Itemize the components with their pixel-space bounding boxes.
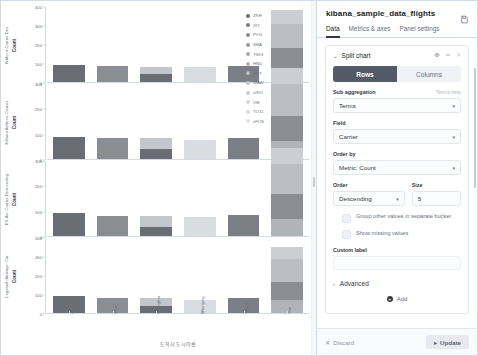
bar-segment[interactable] [97,138,128,160]
y-axis-line [45,161,46,237]
legend-label: TO11 [253,109,263,114]
toggle-columns[interactable]: Columns [397,66,461,82]
y-axis-tick: 100 [35,62,42,67]
eye-icon[interactable] [434,52,440,59]
stacked-bar[interactable] [184,67,215,83]
update-label: Update [440,339,461,346]
tab-metrics-axes[interactable]: Metrics & axes [349,25,391,38]
tab-data[interactable]: Data [326,25,340,38]
legend-item[interactable]: HND [246,59,306,69]
group-other-label: Group other values in separate bucket [356,213,451,221]
stacked-bar[interactable] [140,216,171,237]
y-axis-line [45,238,46,314]
update-button[interactable]: ▸ Update [426,335,469,349]
bar-segment[interactable] [228,215,259,237]
stacked-bar[interactable] [140,67,171,83]
legend-item[interactable]: vRIO [246,88,306,98]
y-axis-title: Count [10,161,19,237]
group-other-checkbox[interactable] [342,214,351,223]
bar-slot [134,84,178,160]
bar-segment[interactable] [271,259,302,282]
legend-item[interactable]: SHA [246,40,306,50]
legend-item[interactable]: VIE [246,97,306,107]
chevron-down-icon[interactable]: ⌄ [333,53,338,59]
x-axis-tick: Zurich [47,311,91,341]
editor-header: kibana_sample_data_flights [317,1,477,18]
agg-title: Split chart [342,52,371,59]
show-missing-row[interactable]: Show missing values [333,230,461,240]
size-value: 5 [418,195,421,202]
stacked-bar[interactable] [271,247,302,314]
rows-columns-toggle: Rows Columns [333,66,461,82]
bar-segment[interactable] [271,148,302,164]
order-value: Descending [339,195,372,202]
bar-segment[interactable] [271,219,302,237]
visualization-area: Without Carrier DesCount0100200300400Kib… [1,1,311,355]
stacked-bar[interactable] [184,140,215,160]
bar-segment[interactable] [53,65,84,83]
bar-segment[interactable] [271,247,302,259]
toggle-rows[interactable]: Rows [333,66,397,82]
bar-segment[interactable] [140,67,171,75]
advanced-toggle[interactable]: › Advanced [333,280,461,287]
bar-segment[interactable] [184,140,215,160]
bar-segment[interactable] [97,216,128,237]
bar-segment[interactable] [97,66,128,83]
terms-help-link[interactable]: Terms help [436,89,461,95]
custom-label-input[interactable] [333,256,461,270]
save-icon[interactable] [460,10,469,19]
stacked-bar[interactable] [184,217,215,237]
legend-item[interactable]: PVG [246,30,306,40]
bar-slot [178,7,222,83]
stacked-bar[interactable] [228,215,259,237]
bar-segment[interactable] [184,67,215,83]
group-other-row[interactable]: Group other values in separate bucket [333,213,461,223]
sub-aggregation-select[interactable]: Terms ▾ [333,98,461,113]
legend-item[interactable]: ZRH [246,11,306,21]
bar-segment[interactable] [184,217,215,237]
legend-item[interactable]: NRT [246,69,306,79]
bar-segment[interactable] [271,164,302,194]
close-icon[interactable] [456,52,462,59]
bar-segment[interactable] [140,216,171,227]
size-input[interactable]: 5 [412,191,461,206]
legend-label: YWG [253,52,263,57]
stacked-bar[interactable] [53,213,84,237]
y-axis-tick-labels: 0100200300400 [19,238,45,314]
y-axis: ES-Air: Carrier DescendingCount010020030… [1,161,47,237]
legend-item[interactable]: XIY [246,21,306,31]
y-axis-tick: 300 [35,159,42,164]
drag-handle-icon[interactable] [445,52,451,59]
bar-segment[interactable] [53,213,84,237]
legend-label: WAW [253,80,264,85]
legend-label: NRT [253,71,262,76]
x-axis-tick: Xi'an [91,311,135,341]
stacked-bar[interactable] [228,138,259,160]
stacked-bar[interactable] [53,137,84,160]
show-missing-checkbox[interactable] [342,230,351,239]
stacked-bar[interactable] [97,66,128,83]
order-by-select[interactable]: Metric: Count ▾ [333,160,461,175]
bar-segment[interactable] [271,282,302,300]
stacked-bar[interactable] [140,138,171,160]
y-axis-tick: 0 [40,312,42,317]
bar-segment[interactable] [228,138,259,160]
order-select[interactable]: Descending ▾ [333,191,405,206]
stacked-bar[interactable] [97,138,128,160]
discard-button[interactable]: ✕ Discard [325,339,354,346]
bar-segment[interactable] [53,137,84,160]
add-aggregation-button[interactable]: + Add [333,296,461,305]
legend-item[interactable]: WAW [246,78,306,88]
editor-scrollbar[interactable] [474,68,476,188]
field-select[interactable]: Carrier ▾ [333,129,461,144]
legend-item[interactable]: vFOS [246,117,306,127]
legend-item[interactable]: YWG [246,49,306,59]
bar-segment[interactable] [271,194,302,219]
y-axis: Without Carrier DesCount0100200300400 [1,7,47,83]
stacked-bar[interactable] [97,216,128,237]
stacked-bar[interactable] [271,148,302,237]
tab-panel-settings[interactable]: Panel settings [399,25,439,38]
legend-item[interactable]: TO11 [246,107,306,117]
bar-segment[interactable] [140,138,171,149]
stacked-bar[interactable] [53,65,84,83]
